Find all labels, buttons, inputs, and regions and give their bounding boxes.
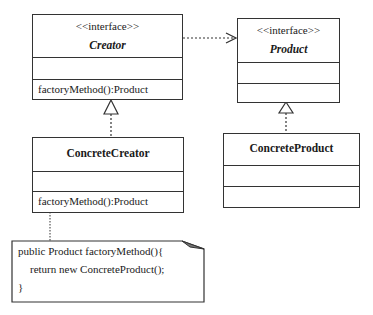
attributes-section [33,171,183,191]
hollow-triangle-icon [104,100,118,114]
note-line: } [18,281,23,293]
class-product[interactable]: <<interface>> Product [237,18,340,103]
method: factoryMethod():Product [38,195,148,207]
attributes-section [238,62,339,83]
note-line: public Product factoryMethod(){ [18,245,163,257]
stereotype-label: <<interface>> [238,24,339,36]
note[interactable]: public Product factoryMethod(){ return n… [12,241,204,302]
methods-section: factoryMethod():Product [33,191,183,212]
class-concrete-product[interactable]: ConcreteProduct [223,133,360,208]
stereotype-label: <<interface>> [33,20,182,32]
note-line: return new ConcreteProduct(); [30,263,164,275]
class-name: ConcreteProduct [224,142,359,154]
class-creator[interactable]: <<interface>> Creator factoryMethod():Pr… [32,14,183,100]
method: factoryMethod():Product [38,83,148,95]
class-name: Product [238,43,339,55]
class-name: ConcreteCreator [33,147,183,159]
attributes-section [33,57,182,79]
attributes-section [224,165,359,186]
hollow-triangle-icon [279,102,293,113]
class-name: Creator [33,39,182,51]
class-concrete-creator[interactable]: ConcreteCreator factoryMethod():Product [32,137,184,213]
methods-section [224,186,359,207]
methods-section [238,83,339,102]
methods-section: factoryMethod():Product [33,79,182,99]
